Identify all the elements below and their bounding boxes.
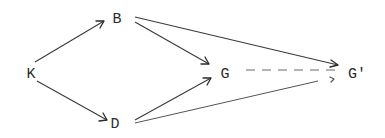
node-g-prime: G' <box>348 67 366 82</box>
node-g: G <box>220 67 229 82</box>
edge-k-to-b <box>35 21 104 62</box>
edge-b-to-g <box>135 22 209 64</box>
edge-d-to-g <box>135 78 211 120</box>
edge-b-to-gprime <box>135 17 338 67</box>
edge-k-to-d <box>37 81 107 121</box>
edge-g-to-gprime-dashed <box>246 70 336 82</box>
node-b: B <box>112 12 121 27</box>
edge-d-to-gprime <box>135 81 318 123</box>
node-d: D <box>110 117 119 132</box>
graph-diagram <box>0 0 385 138</box>
arrowhead-icon <box>330 77 334 82</box>
node-k: K <box>26 67 35 82</box>
arrowhead-icon <box>99 113 107 121</box>
